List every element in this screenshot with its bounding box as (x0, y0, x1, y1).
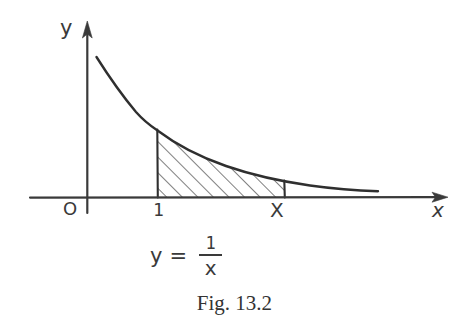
figure-drawing (0, 0, 469, 330)
boundary-line-x-equals-upper (284, 181, 285, 198)
tick-label-upper-bound: X (270, 200, 284, 220)
y-axis-label: y (60, 18, 72, 39)
fraction-denominator: x (205, 256, 217, 278)
boundary-line-x-equals-1 (157, 130, 158, 198)
tick-label-lower-bound: 1 (153, 201, 164, 219)
equation-equals-sign: = (169, 244, 187, 268)
figure-caption: Fig. 13.2 (0, 291, 469, 316)
origin-label: O (63, 200, 77, 218)
fraction-numerator: 1 (205, 235, 215, 254)
equation-annotation: y = 1 x (150, 234, 222, 277)
y-axis (82, 21, 92, 213)
equation-fraction: 1 x (199, 235, 222, 278)
equation-lhs: y (150, 244, 162, 268)
x-axis-label: x (432, 200, 444, 220)
figure-container: y x O 1 X y = 1 x Fig. 13.2 (0, 0, 469, 330)
